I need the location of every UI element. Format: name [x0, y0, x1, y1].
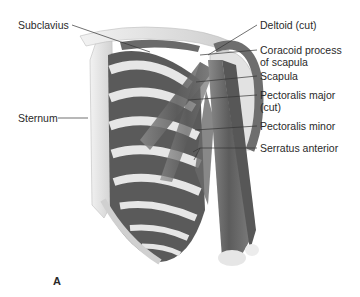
label-pectoralis-major-line1: Pectoralis major [260, 89, 335, 101]
label-sternum: Sternum [18, 112, 58, 124]
label-coracoid-process-line1: Coracoid process [260, 44, 342, 56]
label-coracoid-process-line2: of scapula [260, 56, 308, 68]
label-deltoid-cut: Deltoid (cut) [260, 19, 317, 31]
panel-label: A [53, 275, 61, 287]
label-pectoralis-major-line2: (cut) [260, 101, 281, 113]
label-subclavius: Subclavius [18, 19, 69, 31]
label-scapula: Scapula [260, 70, 298, 82]
label-serratus-anterior: Serratus anterior [260, 142, 338, 154]
label-pectoralis-minor: Pectoralis minor [260, 120, 335, 132]
